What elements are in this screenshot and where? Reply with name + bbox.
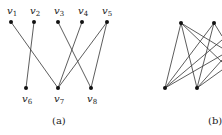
figure-caption: (b) <box>208 115 222 126</box>
node-label: v6 <box>22 93 33 106</box>
graph-edge <box>165 40 222 88</box>
graph-canvas: v1v2v3v4v5v6v7v8(a) (b) <box>0 0 222 135</box>
graph-edge <box>214 23 222 36</box>
node-label: v8 <box>87 93 97 106</box>
graph-edge <box>58 22 107 88</box>
graph-node <box>195 86 199 90</box>
node-label: v1 <box>7 5 17 18</box>
graph-edge <box>91 22 107 88</box>
graph-node <box>56 86 60 90</box>
node-label: v4 <box>78 5 89 18</box>
node-label: v5 <box>102 5 112 18</box>
graph-edge <box>58 22 91 88</box>
graph-edge <box>26 22 34 88</box>
graph-node <box>163 86 167 90</box>
graph-edge <box>58 22 82 88</box>
node-label: v3 <box>54 5 64 18</box>
graph-node <box>89 86 93 90</box>
graph-node <box>80 20 84 24</box>
figure-b: (b) <box>163 21 222 126</box>
node-label: v7 <box>54 93 64 106</box>
node-label: v2 <box>30 5 40 18</box>
graph-node <box>24 86 28 90</box>
graph-edge <box>11 22 58 88</box>
figure-caption: (a) <box>52 115 66 126</box>
graph-edge <box>165 23 214 88</box>
graph-edge <box>165 55 222 88</box>
graph-node <box>9 20 13 24</box>
figure-a: v1v2v3v4v5v6v7v8(a) <box>7 5 112 126</box>
graph-edge <box>181 23 222 62</box>
graph-node <box>105 20 109 24</box>
graph-node <box>212 21 216 25</box>
graph-edge <box>165 23 181 88</box>
graph-node <box>32 20 36 24</box>
graph-node <box>179 21 183 25</box>
graph-node <box>56 20 60 24</box>
